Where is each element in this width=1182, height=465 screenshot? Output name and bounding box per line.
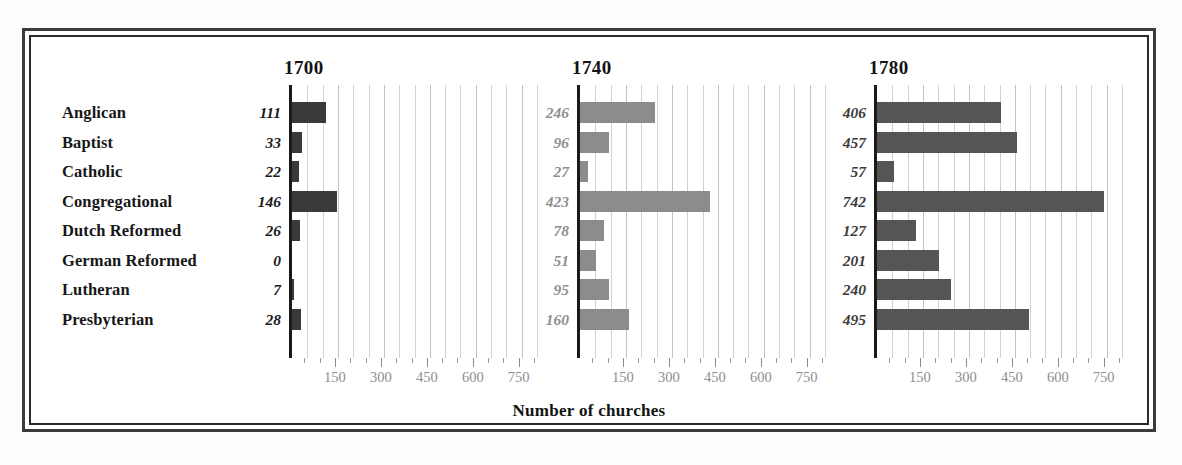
axis-tick [997,358,998,363]
axis-tick [442,358,443,363]
bars-region [577,85,822,358]
bar-rows [292,98,534,334]
axis-tick-label: 600 [750,369,772,386]
axis-tick [427,358,428,367]
axis-tick [396,358,397,363]
bar [580,279,609,300]
value-label: 246 [519,98,569,128]
axis-tick [350,358,351,363]
axis-caption: Number of churches [29,401,1149,421]
category-label: Catholic [62,157,247,187]
bar-row [580,246,822,276]
bar [580,191,710,212]
axis-tick-label: 450 [416,369,438,386]
bar [580,102,655,123]
bar [292,220,300,241]
value-label: 7 [231,275,281,305]
bar [580,220,604,241]
value-label: 160 [519,305,569,335]
axis-ticks [577,358,822,367]
axis-tick [457,358,458,363]
value-label: 51 [519,246,569,276]
axis-tick-label: 750 [796,369,818,386]
value-label: 742 [816,187,866,217]
axis-tick [730,358,731,363]
axis-tick [412,358,413,363]
value-label-column: 1113322146260728 [231,98,281,334]
category-label: Dutch Reformed [62,216,247,246]
axis-tick [1073,358,1074,363]
bar [292,161,299,182]
axis-tick [335,358,336,367]
category-label: Presbyterian [62,305,247,335]
bar [877,309,1029,330]
bar-row [877,305,1119,335]
axis-tick [1012,358,1013,367]
axis-tick [1042,358,1043,363]
panel-1700: 1700 1113322146260728 150300450600750 [234,35,534,425]
bar-rows [580,98,822,334]
axis-tick [807,358,808,367]
category-label-column: Anglican Baptist Catholic Congregational… [62,98,247,334]
axis-tick-label: 150 [909,369,931,386]
bar-row [877,246,1119,276]
axis-tick [905,358,906,363]
axis-tick [366,358,367,363]
bar [877,102,1001,123]
axis-ticks [874,358,1119,367]
bar [877,161,894,182]
bar-row [877,128,1119,158]
bar [292,191,337,212]
axis-tick [320,358,321,363]
value-label: 423 [519,187,569,217]
value-label: 146 [231,187,281,217]
value-label: 457 [816,128,866,158]
panel-title: 1780 [869,57,909,79]
category-label: German Reformed [62,246,247,276]
value-label: 127 [816,216,866,246]
axis-tick [519,358,520,367]
value-label: 201 [816,246,866,276]
axis-tick [981,358,982,363]
value-label: 495 [816,305,866,335]
bar-row [580,216,822,246]
axis-tick [791,358,792,363]
axis-tick-label: 750 [1093,369,1115,386]
axis-tick [700,358,701,363]
bar [877,250,939,271]
bar-row [580,187,822,217]
bar [877,191,1104,212]
panel-title: 1700 [284,57,324,79]
bar-row [580,157,822,187]
value-label: 240 [816,275,866,305]
bar [580,161,588,182]
axis-tick [381,358,382,367]
value-label: 33 [231,128,281,158]
bars-region [874,85,1119,358]
axis-tick [1119,358,1120,363]
axis-tick-label: 300 [370,369,392,386]
bar [580,250,596,271]
bar-row [292,216,534,246]
gridline [1122,85,1123,358]
axis-tick [503,358,504,363]
axis-tick [951,358,952,363]
axis-tick [592,358,593,363]
bar-row [292,98,534,128]
chart-figure: Anglican Baptist Catholic Congregational… [0,0,1182,465]
axis-tick-label: 450 [1001,369,1023,386]
bar-row [877,98,1119,128]
bar [292,309,301,330]
category-label: Anglican [62,98,247,128]
axis-tick [654,358,655,363]
value-label: 96 [519,128,569,158]
axis-tick-label: 300 [955,369,977,386]
value-label: 22 [231,157,281,187]
value-label: 0 [231,246,281,276]
value-label-column: 2469627423785195160 [519,98,569,334]
axis-tick [488,358,489,363]
axis-tick-label: 600 [1047,369,1069,386]
value-label: 95 [519,275,569,305]
value-label: 26 [231,216,281,246]
axis-tick-label: 300 [658,369,680,386]
